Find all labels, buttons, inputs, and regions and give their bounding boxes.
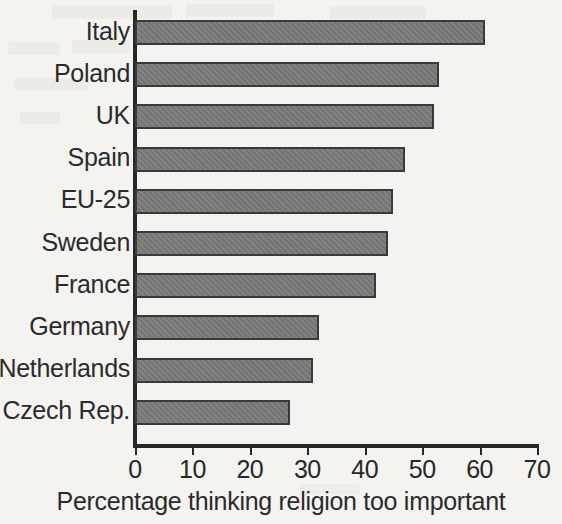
category-label: Netherlands <box>0 354 130 383</box>
x-tick-label: 70 <box>507 455 562 484</box>
bar <box>135 62 439 87</box>
x-tick-mark <box>307 444 309 455</box>
x-tick-mark <box>480 444 482 455</box>
category-label: Germany <box>29 312 130 341</box>
x-tick-mark <box>135 444 137 455</box>
x-tick-label: 10 <box>162 455 222 484</box>
x-tick-label: 0 <box>105 455 165 484</box>
category-label: Spain <box>68 143 130 172</box>
bar <box>135 189 393 214</box>
category-label: Poland <box>54 59 130 88</box>
bar <box>135 358 313 383</box>
bar <box>135 231 388 256</box>
x-tick-label: 60 <box>450 455 510 484</box>
x-tick-mark <box>422 444 424 455</box>
x-tick-mark <box>537 444 539 455</box>
bar <box>135 400 290 425</box>
bar <box>135 315 319 340</box>
bar <box>135 147 405 172</box>
x-tick-label: 40 <box>335 455 395 484</box>
category-label: Czech Rep. <box>2 396 130 425</box>
category-label: Italy <box>86 17 130 46</box>
x-axis-title: Percentage thinking religion too importa… <box>0 487 562 516</box>
category-label: EU-25 <box>61 185 130 214</box>
x-tick-mark <box>365 444 367 455</box>
bar-chart: ItalyPolandUKSpainEU-25SwedenFranceGerma… <box>0 0 562 524</box>
category-label: UK <box>96 101 130 130</box>
x-tick-label: 20 <box>220 455 280 484</box>
x-tick-mark <box>250 444 252 455</box>
x-tick-label: 30 <box>277 455 337 484</box>
x-tick-mark <box>192 444 194 455</box>
bar <box>135 20 485 45</box>
category-label: Sweden <box>41 228 130 257</box>
bar <box>135 104 434 129</box>
x-tick-label: 50 <box>392 455 452 484</box>
category-label: France <box>54 270 130 299</box>
bar <box>135 273 376 298</box>
